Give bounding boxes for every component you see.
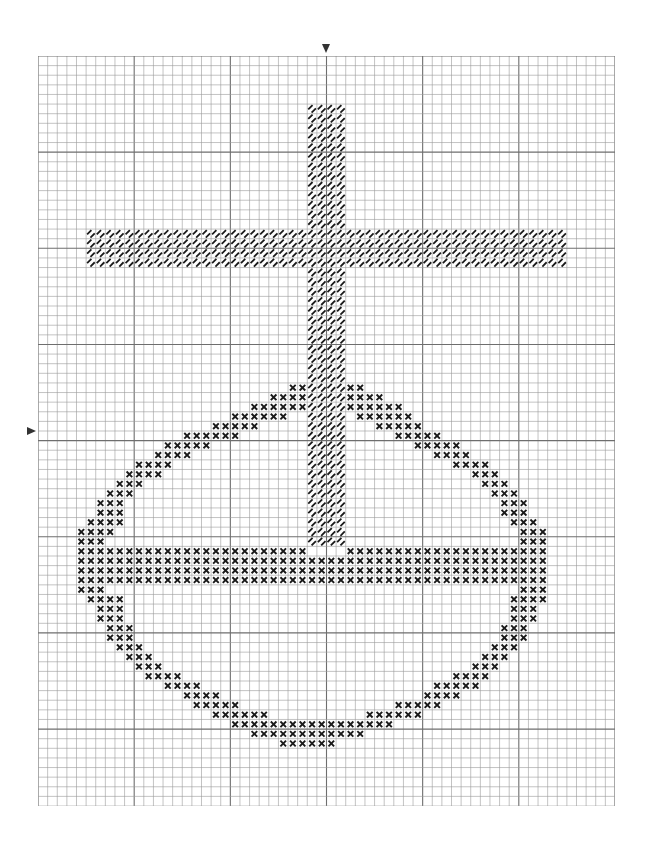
diagonal-stitch-icon — [321, 330, 325, 334]
diagonal-stitch-icon — [235, 243, 239, 247]
diagonal-stitch-icon — [302, 243, 306, 247]
diagonal-stitch-icon — [119, 243, 123, 247]
diagonal-stitch-icon — [443, 240, 447, 244]
diagonal-stitch-icon — [251, 259, 255, 263]
diagonal-stitch-icon — [106, 249, 110, 253]
diagonal-stitch-icon — [327, 374, 331, 378]
diagonal-stitch-icon — [183, 240, 187, 244]
diagonal-stitch-icon — [417, 262, 421, 266]
diagonal-stitch-icon — [193, 240, 197, 244]
diagonal-stitch-icon — [562, 262, 566, 266]
diagonal-stitch-icon — [308, 105, 312, 109]
diagonal-stitch-icon — [340, 512, 344, 516]
diagonal-stitch-icon — [337, 451, 341, 455]
diagonal-stitch-icon — [318, 365, 322, 369]
diagonal-stitch-icon — [327, 182, 331, 186]
diagonal-stitch-icon — [337, 394, 341, 398]
diagonal-stitch-icon — [244, 262, 248, 266]
diagonal-stitch-icon — [212, 240, 216, 244]
diagonal-stitch-icon — [327, 230, 331, 234]
diagonal-stitch-icon — [318, 336, 322, 340]
diagonal-stitch-icon — [385, 249, 389, 253]
diagonal-stitch-icon — [504, 243, 508, 247]
diagonal-stitch-icon — [340, 310, 344, 314]
diagonal-stitch-icon — [331, 272, 335, 276]
diagonal-stitch-icon — [340, 426, 344, 430]
diagonal-stitch-icon — [417, 253, 421, 257]
diagonal-stitch-icon — [244, 233, 248, 237]
diagonal-stitch-icon — [321, 464, 325, 468]
diagonal-stitch-icon — [549, 240, 553, 244]
diagonal-stitch-icon — [327, 519, 331, 523]
diagonal-stitch-icon — [481, 249, 485, 253]
diagonal-stitch-icon — [158, 262, 162, 266]
diagonal-stitch-icon — [318, 528, 322, 532]
diagonal-stitch-icon — [340, 214, 344, 218]
diagonal-stitch-icon — [321, 503, 325, 507]
diagonal-stitch-icon — [331, 195, 335, 199]
diagonal-stitch-icon — [366, 230, 370, 234]
diagonal-stitch-icon — [231, 249, 235, 253]
diagonal-stitch-icon — [549, 230, 553, 234]
diagonal-stitch-icon — [424, 249, 428, 253]
diagonal-stitch-icon — [379, 233, 383, 237]
diagonal-stitch-icon — [321, 541, 325, 545]
diagonal-stitch-icon — [331, 416, 335, 420]
diagonal-stitch-icon — [369, 253, 373, 257]
diagonal-stitch-icon — [533, 243, 537, 247]
diagonal-stitch-icon — [337, 365, 341, 369]
diagonal-stitch-icon — [385, 230, 389, 234]
diagonal-stitch-icon — [485, 233, 489, 237]
diagonal-stitch-icon — [308, 403, 312, 407]
diagonal-stitch-icon — [264, 262, 268, 266]
diagonal-stitch-icon — [312, 253, 316, 257]
diagonal-stitch-icon — [260, 249, 264, 253]
diagonal-stitch-icon — [126, 249, 130, 253]
diagonal-stitch-icon — [110, 262, 114, 266]
diagonal-stitch-icon — [462, 240, 466, 244]
diagonal-stitch-icon — [337, 105, 341, 109]
diagonal-stitch-icon — [465, 243, 469, 247]
diagonal-stitch-icon — [376, 230, 380, 234]
diagonal-stitch-icon — [340, 474, 344, 478]
diagonal-stitch-icon — [331, 310, 335, 314]
diagonal-stitch-icon — [174, 230, 178, 234]
diagonal-stitch-icon — [318, 105, 322, 109]
diagonal-stitch-icon — [318, 124, 322, 128]
diagonal-stitch-icon — [321, 320, 325, 324]
diagonal-stitch-icon — [312, 483, 316, 487]
diagonal-stitch-icon — [279, 240, 283, 244]
diagonal-stitch-icon — [312, 195, 316, 199]
diagonal-stitch-icon — [350, 233, 354, 237]
diagonal-stitch-icon — [337, 278, 341, 282]
diagonal-stitch-icon — [308, 288, 312, 292]
diagonal-stitch-icon — [196, 243, 200, 247]
diagonal-stitch-icon — [318, 192, 322, 196]
diagonal-stitch-icon — [318, 461, 322, 465]
diagonal-stitch-icon — [318, 288, 322, 292]
diagonal-stitch-icon — [340, 128, 344, 132]
diagonal-stitch-icon — [433, 259, 437, 263]
diagonal-stitch-icon — [312, 387, 316, 391]
diagonal-stitch-icon — [340, 522, 344, 526]
diagonal-stitch-icon — [414, 259, 418, 263]
diagonal-stitch-icon — [337, 470, 341, 474]
diagonal-stitch-icon — [174, 240, 178, 244]
diagonal-stitch-icon — [312, 512, 316, 516]
diagonal-stitch-icon — [331, 339, 335, 343]
diagonal-stitch-icon — [337, 422, 341, 426]
diagonal-stitch-icon — [312, 464, 316, 468]
diagonal-stitch-icon — [270, 230, 274, 234]
diagonal-stitch-icon — [331, 233, 335, 237]
diagonal-stitch-icon — [321, 301, 325, 305]
diagonal-stitch-icon — [327, 326, 331, 330]
diagonal-stitch-icon — [308, 297, 312, 301]
diagonal-stitch-icon — [501, 230, 505, 234]
diagonal-stitch-icon — [337, 403, 341, 407]
diagonal-stitch-icon — [100, 253, 104, 257]
diagonal-stitch-icon — [110, 253, 114, 257]
diagonal-stitch-icon — [212, 249, 216, 253]
diagonal-stitch-icon — [308, 432, 312, 436]
diagonal-stitch-icon — [206, 262, 210, 266]
diagonal-stitch-icon — [308, 249, 312, 253]
